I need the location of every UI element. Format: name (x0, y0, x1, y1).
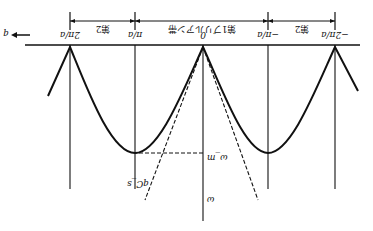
tick-neg-pi: −π/a (257, 30, 279, 40)
tick-2pi: 2π/a (60, 30, 81, 40)
q-label: q (3, 29, 9, 39)
dispersion-diagram: q 2π/a π/a 0 −π/a −2π/a 第2 第1ブリルアン帯 第2 ω… (0, 0, 373, 231)
sound-line-label: qC_s (127, 178, 149, 189)
zone-1-label: 第1ブリルアン帯 (168, 24, 237, 35)
zone-2-right-label: 第2 (295, 24, 310, 35)
omega-label: ω (206, 195, 214, 205)
sound-line-right (203, 47, 258, 200)
sound-line-left (145, 47, 203, 200)
q-arrow-icon (11, 32, 17, 38)
omega-max-label: ω_m (207, 152, 227, 163)
zone-2-left-label: 第2 (96, 24, 111, 35)
tick-pi: π/a (128, 30, 143, 40)
tick-neg-2pi: −2π/a (321, 30, 349, 40)
